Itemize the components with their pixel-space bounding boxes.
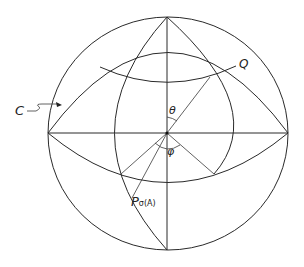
label-phi: φ <box>167 146 174 157</box>
sphere-figure <box>0 0 304 267</box>
radius-to-p <box>132 133 167 198</box>
right-meridian-arc <box>167 17 234 174</box>
center-point <box>165 131 168 134</box>
label-q: Q <box>239 58 248 70</box>
latitude-arc-q <box>100 66 236 82</box>
theta-angle-arc <box>167 117 177 121</box>
upper-great-circle-arc <box>48 53 288 134</box>
radius-lower-left <box>121 133 167 174</box>
label-p-main: P <box>131 194 139 209</box>
label-c: C <box>15 104 24 117</box>
sphere-diagram: C Q θ φ Pσ(A) <box>0 0 304 267</box>
c-arrowhead-icon <box>56 102 62 107</box>
label-p-sigma-a: Pσ(A) <box>131 195 156 208</box>
c-leader-line <box>27 104 58 111</box>
label-p-subscript: σ(A) <box>139 199 156 208</box>
label-theta: θ <box>169 105 176 116</box>
